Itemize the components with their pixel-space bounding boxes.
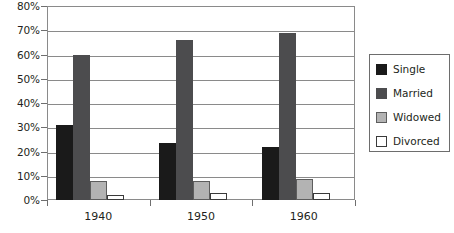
legend-label: Single bbox=[393, 64, 425, 75]
bar-chart: 0%10%20%30%40%50%60%70%80% 194019501960 … bbox=[0, 0, 454, 233]
bar-single-1960 bbox=[262, 147, 279, 200]
x-axis-tick-mark bbox=[47, 200, 48, 206]
legend-swatch-married-icon bbox=[376, 88, 387, 99]
bar-divorced-1960 bbox=[313, 193, 330, 200]
y-axis-tick-label: 20% bbox=[0, 146, 40, 157]
y-axis-tick-label: 30% bbox=[0, 122, 40, 133]
x-axis-category-label: 1960 bbox=[290, 211, 318, 223]
x-axis-tick-mark bbox=[252, 200, 253, 206]
bar-widowed-1950 bbox=[193, 181, 210, 200]
bars-layer bbox=[47, 6, 355, 200]
legend-swatch-widowed-icon bbox=[376, 112, 387, 123]
legend-item-divorced[interactable]: Divorced bbox=[376, 136, 440, 147]
bar-divorced-1940 bbox=[107, 195, 124, 200]
legend-item-widowed[interactable]: Widowed bbox=[376, 112, 441, 123]
bar-widowed-1960 bbox=[296, 179, 313, 200]
y-axis-tick-label: 10% bbox=[0, 171, 40, 182]
x-axis-tick-mark bbox=[150, 200, 151, 206]
bar-divorced-1950 bbox=[210, 193, 227, 200]
legend-swatch-single-icon bbox=[376, 64, 387, 75]
bar-widowed-1940 bbox=[90, 181, 107, 200]
bar-married-1960 bbox=[279, 33, 296, 200]
bar-married-1940 bbox=[73, 55, 90, 201]
legend-label: Divorced bbox=[393, 136, 440, 147]
y-axis-tick-label: 60% bbox=[0, 49, 40, 60]
legend-label: Married bbox=[393, 88, 433, 99]
y-axis-tick-label: 70% bbox=[0, 25, 40, 36]
legend-label: Widowed bbox=[393, 112, 441, 123]
bar-single-1950 bbox=[159, 143, 176, 200]
x-axis-tick-mark bbox=[355, 200, 356, 206]
legend-item-married[interactable]: Married bbox=[376, 88, 433, 99]
bar-married-1950 bbox=[176, 40, 193, 200]
x-axis-category-label: 1940 bbox=[84, 211, 112, 223]
y-axis-tick-label: 80% bbox=[0, 1, 40, 12]
y-axis-tick-label: 40% bbox=[0, 98, 40, 109]
legend-item-single[interactable]: Single bbox=[376, 64, 425, 75]
y-axis-tick-label: 0% bbox=[0, 195, 40, 206]
chart-legend: SingleMarriedWidowedDivorced bbox=[369, 54, 450, 152]
bar-single-1940 bbox=[56, 125, 73, 200]
y-axis-labels: 0%10%20%30%40%50%60%70%80% bbox=[0, 0, 40, 206]
y-axis-tick-label: 50% bbox=[0, 74, 40, 85]
legend-swatch-divorced-icon bbox=[376, 136, 387, 147]
x-axis-category-label: 1950 bbox=[187, 211, 215, 223]
